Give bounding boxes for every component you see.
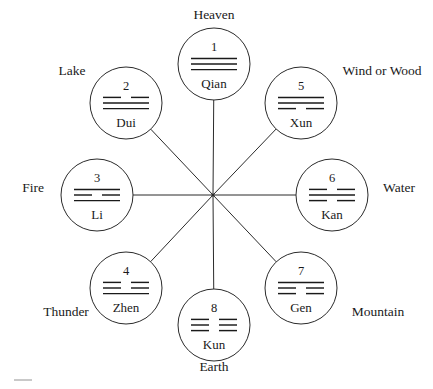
trigram-node-zhen[interactable]: 4Zhen	[90, 252, 162, 324]
outer-label-qian: Heaven	[193, 8, 234, 22]
trigram-node-qian[interactable]: 1Qian	[178, 28, 250, 100]
outer-label-xun: Wind or Wood	[342, 64, 421, 78]
node-index-qian: 1	[211, 40, 217, 54]
bagua-diagram-figure: 1Qian2Dui3Li4Zhen5Xun6Kan7Gen8Kun Heaven…	[0, 0, 433, 389]
center-hub-point	[211, 193, 214, 196]
spoke-qian	[213, 100, 214, 195]
node-index-gen: 7	[298, 264, 304, 278]
node-index-li: 3	[94, 171, 100, 185]
outer-label-kun: Earth	[199, 360, 228, 374]
trigram-node-li[interactable]: 3Li	[61, 159, 133, 231]
node-name-gen: Gen	[290, 300, 312, 315]
outer-label-kan: Water	[383, 181, 415, 195]
outer-label-gen: Mountain	[352, 305, 405, 319]
outer-label-li: Fire	[22, 181, 44, 195]
node-name-xun: Xun	[290, 115, 313, 130]
outer-label-zhen: Thunder	[43, 305, 89, 319]
trigram-node-gen[interactable]: 7Gen	[265, 252, 337, 324]
node-index-dui: 2	[123, 79, 129, 93]
node-name-dui: Dui	[116, 115, 136, 130]
spoke-zhen	[151, 195, 213, 262]
outer-label-dui: Lake	[59, 64, 86, 78]
trigram-node-kan[interactable]: 6Kan	[296, 159, 368, 231]
page-edge-artifact	[14, 379, 32, 381]
node-name-li: Li	[91, 207, 103, 222]
node-name-kan: Kan	[321, 207, 343, 222]
trigram-node-xun[interactable]: 5Xun	[265, 67, 337, 139]
spoke-dui	[151, 129, 213, 195]
node-name-zhen: Zhen	[113, 300, 140, 315]
node-index-kan: 6	[329, 171, 335, 185]
diagram-canvas: 1Qian2Dui3Li4Zhen5Xun6Kan7Gen8Kun	[0, 0, 433, 389]
spoke-xun	[213, 129, 276, 195]
node-name-qian: Qian	[201, 76, 227, 91]
trigram-node-dui[interactable]: 2Dui	[90, 67, 162, 139]
node-name-kun: Kun	[203, 337, 226, 352]
node-index-xun: 5	[298, 79, 304, 93]
spoke-kun	[213, 195, 214, 289]
node-index-kun: 8	[211, 301, 217, 315]
node-index-zhen: 4	[123, 264, 130, 278]
trigram-node-kun[interactable]: 8Kun	[178, 289, 250, 361]
spoke-gen	[213, 195, 276, 262]
spokes-group	[133, 100, 296, 289]
